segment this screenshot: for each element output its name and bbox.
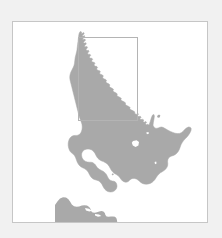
map-canvas	[13, 22, 207, 222]
map-screenshot-root	[0, 0, 222, 238]
map-figure-panel	[12, 21, 208, 223]
